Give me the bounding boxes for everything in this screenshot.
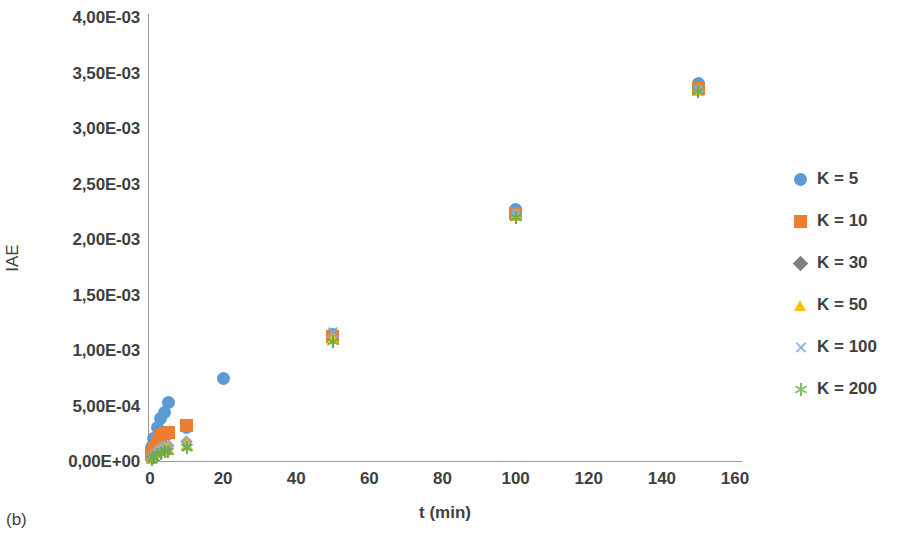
data-point-triangle	[692, 84, 704, 96]
data-point-asterisk	[151, 448, 164, 461]
data-point-triangle	[155, 444, 167, 456]
y-tick-label: 4,00E-03	[40, 9, 140, 26]
data-point-circle	[154, 412, 167, 425]
x-tick-label: 0	[120, 470, 180, 487]
y-tick-label: 0,00E+00	[40, 453, 140, 470]
legend-label: K = 100	[817, 337, 877, 357]
data-point-x	[148, 451, 160, 463]
data-point-circle	[162, 396, 175, 409]
legend-item-k-30[interactable]: K = 30	[792, 242, 903, 284]
legend-label: K = 200	[817, 379, 877, 399]
data-point-asterisk	[180, 441, 193, 454]
data-point-square	[154, 429, 167, 442]
data-point-circle	[147, 432, 160, 445]
data-point-diamond	[327, 332, 339, 344]
legend-item-k-100[interactable]: K = 100	[792, 326, 903, 368]
legend-marker-x-icon	[792, 338, 810, 356]
legend-item-k-50[interactable]: K = 50	[792, 284, 903, 326]
legend-label: K = 5	[817, 169, 858, 189]
y-tick-label: 3,00E-03	[40, 120, 140, 137]
data-point-circle	[509, 203, 522, 216]
x-tick-label: 100	[486, 470, 546, 487]
y-tick-label: 1,00E-03	[40, 342, 140, 359]
legend-label: K = 10	[817, 211, 868, 231]
x-axis-title: t (min)	[295, 503, 595, 523]
x-tick-label: 80	[413, 470, 473, 487]
data-point-triangle	[181, 438, 193, 450]
data-point-asterisk	[326, 335, 339, 348]
data-point-asterisk	[154, 447, 167, 460]
data-point-square	[692, 82, 705, 95]
data-point-square	[158, 427, 171, 440]
data-point-square	[151, 435, 164, 448]
data-point-asterisk	[509, 211, 522, 224]
data-point-triangle	[327, 332, 339, 344]
data-point-triangle	[146, 452, 158, 464]
data-point-diamond	[155, 441, 167, 453]
y-tick-label: 3,50E-03	[40, 65, 140, 82]
data-point-diamond	[146, 451, 158, 463]
legend-item-k-5[interactable]: K = 5	[792, 158, 903, 200]
data-point-circle	[151, 421, 164, 434]
data-point-x	[510, 207, 522, 219]
data-point-diamond	[509, 208, 521, 220]
data-point-diamond	[151, 444, 163, 456]
legend-item-k-200[interactable]: K = 200	[792, 368, 903, 410]
data-point-asterisk	[145, 453, 158, 466]
data-point-square	[162, 426, 175, 439]
figure-panel: 0,00E+005,00E-041,00E-031,50E-032,00E-03…	[0, 0, 903, 549]
data-point-square	[145, 448, 158, 461]
data-point-triangle	[159, 443, 171, 455]
plot-area	[148, 14, 742, 462]
x-tick-label: 160	[705, 470, 765, 487]
legend-item-k-10[interactable]: K = 10	[792, 200, 903, 242]
legend-marker-circle-icon	[792, 170, 810, 188]
data-point-square	[326, 330, 339, 343]
chart-legend: K = 5K = 10K = 30K = 50K = 100K = 200	[792, 158, 903, 410]
y-axis-title: IAE	[3, 223, 23, 293]
data-point-triangle	[148, 449, 160, 461]
y-tick-label: 2,00E-03	[40, 231, 140, 248]
y-axis-tick-labels: 0,00E+005,00E-041,00E-031,50E-032,00E-03…	[38, 0, 140, 549]
data-point-diamond	[162, 439, 174, 451]
data-point-diamond	[180, 435, 192, 447]
data-point-asterisk	[692, 85, 705, 98]
legend-marker-triangle-icon	[792, 296, 810, 314]
data-point-circle	[180, 421, 193, 434]
data-point-asterisk	[158, 445, 171, 458]
data-point-x	[162, 444, 174, 456]
data-point-circle	[326, 328, 339, 341]
data-point-x	[155, 446, 167, 458]
data-point-circle	[692, 77, 705, 90]
data-point-x	[181, 441, 193, 453]
data-point-x	[151, 448, 163, 460]
figure-caption: (b)	[6, 510, 27, 530]
data-point-diamond	[158, 440, 170, 452]
x-tick-label: 60	[339, 470, 399, 487]
data-point-circle	[217, 372, 230, 385]
y-tick-label: 2,50E-03	[40, 176, 140, 193]
data-point-x	[327, 326, 339, 338]
legend-label: K = 30	[817, 253, 868, 273]
data-point-x	[692, 83, 704, 95]
x-tick-label: 40	[266, 470, 326, 487]
data-point-triangle	[162, 442, 174, 454]
data-point-circle	[145, 441, 158, 454]
legend-marker-asterisk-icon	[792, 380, 810, 398]
data-point-diamond	[692, 83, 704, 95]
x-tick-label: 120	[559, 470, 619, 487]
data-point-diamond	[147, 448, 159, 460]
data-point-asterisk	[147, 451, 160, 464]
legend-marker-square-icon	[792, 212, 810, 230]
data-point-square	[147, 442, 160, 455]
x-axis-tick-labels: 020406080100120140160	[0, 470, 903, 500]
data-point-x	[146, 453, 158, 465]
legend-label: K = 50	[817, 295, 868, 315]
y-tick-label: 5,00E-04	[40, 398, 140, 415]
data-point-triangle	[510, 209, 522, 221]
x-tick-label: 20	[193, 470, 253, 487]
data-point-square	[509, 207, 522, 220]
data-point-circle	[158, 406, 171, 419]
data-point-asterisk	[162, 445, 175, 458]
data-point-square	[180, 419, 193, 432]
